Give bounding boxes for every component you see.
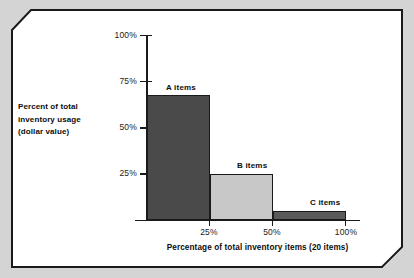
bar-a-items xyxy=(147,95,210,220)
y-axis-title: Percent of total inventory usage (dollar… xyxy=(18,101,110,139)
x-tick-label-25: 25% xyxy=(189,227,229,237)
y-axis-title-line-2: inventory usage xyxy=(18,114,110,127)
plot-area: 100% 75% 50% 25% 25% 50% 100% A items B … xyxy=(0,0,414,278)
bar-b-items xyxy=(210,174,273,221)
bar-label-c-items: C items xyxy=(310,198,340,207)
x-tick-50 xyxy=(272,220,274,226)
chart-figure: 100% 75% 50% 25% 25% 50% 100% A items B … xyxy=(0,0,414,278)
y-tick-100 xyxy=(140,35,152,37)
bar-c-items xyxy=(273,211,346,221)
y-axis-title-line-3: (dollar value) xyxy=(18,126,110,139)
bar-label-b-items: B items xyxy=(237,161,267,170)
bar-label-a-items: A items xyxy=(166,83,196,92)
y-tick-75 xyxy=(140,81,152,83)
x-tick-label-50: 50% xyxy=(252,227,292,237)
x-tick-label-100: 100% xyxy=(324,227,368,237)
y-tick-label-25: 25% xyxy=(96,168,137,178)
y-tick-label-100: 100% xyxy=(96,30,137,40)
y-tick-label-75: 75% xyxy=(96,76,137,86)
y-axis-title-line-1: Percent of total xyxy=(18,101,110,114)
x-tick-100 xyxy=(345,220,347,226)
x-axis-title: Percentage of total inventory items (20 … xyxy=(115,243,400,252)
x-tick-25 xyxy=(209,220,211,226)
